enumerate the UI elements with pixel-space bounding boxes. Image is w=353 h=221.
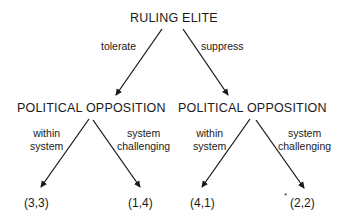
payoff-tolerate-within-system: (3,3): [24, 197, 49, 209]
label-line-1: system: [117, 127, 170, 140]
edge-label-right-within-system: within system: [193, 127, 226, 152]
label-line-2: challenging: [117, 140, 170, 153]
game-tree-diagram: RULING ELITE tolerate suppress POLITICAL…: [0, 0, 353, 221]
label-line-1: within: [30, 127, 63, 140]
payoff-suppress-system-challenging: (2,2): [290, 197, 315, 209]
edge-label-right-system-challenging: system challenging: [278, 127, 331, 152]
edge-tolerate: [116, 29, 162, 95]
edge-label-left-within-system: within system: [30, 127, 63, 152]
edge-label-left-system-challenging: system challenging: [117, 127, 170, 152]
edge-label-tolerate: tolerate: [101, 40, 136, 53]
label-line-1: within: [193, 127, 226, 140]
node-political-opposition-left: POLITICAL OPPOSITION: [17, 102, 166, 115]
node-political-opposition-right: POLITICAL OPPOSITION: [178, 102, 327, 115]
label-line-1: system: [278, 127, 331, 140]
edge-label-suppress: suppress: [201, 40, 244, 53]
edge-suppress: [183, 29, 228, 95]
payoff-tolerate-system-challenging: (1,4): [128, 197, 153, 209]
payoff-suppress-within-system: (4,1): [190, 197, 215, 209]
label-line-2: system: [30, 140, 63, 153]
label-line-2: challenging: [278, 140, 331, 153]
equilibrium-star-icon: *: [284, 192, 287, 200]
root-node-ruling-elite: RULING ELITE: [130, 12, 218, 25]
label-line-2: system: [193, 140, 226, 153]
